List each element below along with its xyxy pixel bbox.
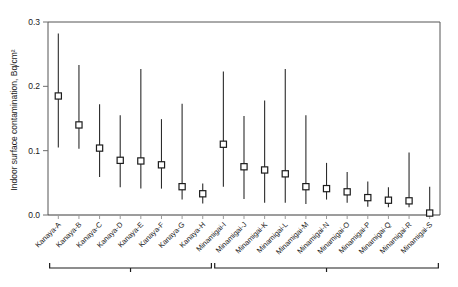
y-tick-label: 0.0 (28, 210, 40, 220)
y-tick-label: 0.1 (28, 146, 40, 156)
data-marker (303, 184, 309, 190)
data-marker (117, 157, 123, 163)
data-marker (241, 164, 247, 170)
scatter-error-chart: 0.00.10.20.3 Indoor surface contaminatio… (0, 0, 458, 287)
y-tick-label: 0.2 (28, 81, 40, 91)
data-marker (138, 158, 144, 164)
data-marker (200, 191, 206, 197)
data-marker (385, 197, 391, 203)
chart-figure: 0.00.10.20.3 Indoor surface contaminatio… (0, 0, 458, 287)
data-marker (323, 186, 329, 192)
data-marker (158, 162, 164, 168)
y-axis-label: Indoor surface contamination, Bq/cm² (9, 49, 19, 190)
y-tick-label: 0.3 (28, 17, 40, 27)
data-marker (220, 141, 226, 147)
data-marker (344, 189, 350, 195)
data-marker (76, 122, 82, 128)
data-marker (96, 145, 102, 151)
data-marker (427, 210, 433, 216)
data-marker (282, 171, 288, 177)
data-marker (262, 167, 268, 173)
data-marker (179, 184, 185, 190)
data-marker (406, 198, 412, 204)
data-marker (55, 93, 61, 99)
data-marker (365, 195, 371, 201)
